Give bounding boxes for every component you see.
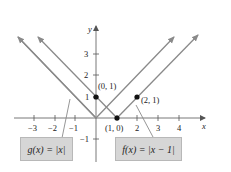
point-1-0 [114, 115, 119, 120]
tick-y-3: 3 [84, 49, 88, 59]
label-box-f: f(x) = |x − 1| [115, 137, 182, 161]
tick-y--1: −1 [80, 134, 89, 144]
tick-x--3: −3 [28, 123, 37, 133]
tick-x--2: −2 [48, 123, 57, 133]
f-function-label: f(x) = |x − 1| [122, 144, 174, 155]
tick-y-2: 2 [84, 70, 88, 80]
y-axis-label: y [87, 24, 92, 34]
tick-x-3: 3 [156, 123, 160, 133]
x-axis-label: x [201, 121, 206, 131]
tick-x-2: 2 [135, 123, 139, 133]
point-2-1 [134, 94, 139, 99]
curve-f-left [38, 37, 117, 118]
tick-x-4: 4 [177, 123, 182, 133]
curve-f-right [117, 35, 198, 118]
point-label-2-1: (2, 1) [141, 95, 160, 105]
g-function-label: g(x) = |x| [28, 144, 66, 155]
point-label-1-0: (1, 0) [105, 123, 124, 133]
point-label-0-1: (0, 1) [98, 81, 117, 91]
tick-x--1: −1 [69, 123, 78, 133]
tick-y-1: 1 [85, 92, 89, 102]
label-box-g: g(x) = |x| [20, 137, 73, 161]
point-0-1 [93, 94, 98, 99]
